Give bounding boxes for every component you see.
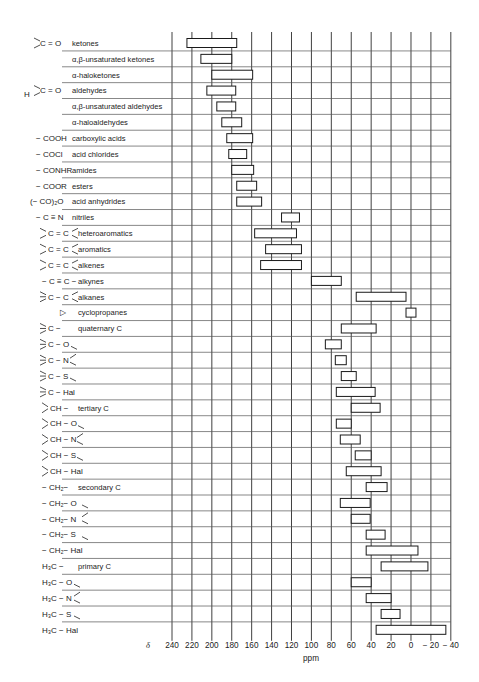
range-bar [207, 86, 236, 95]
compound-class-label: secondary C [78, 483, 121, 492]
bond-stroke [40, 362, 46, 365]
range-bar [237, 181, 257, 190]
range-bar [340, 498, 370, 507]
bond-stroke [42, 472, 48, 476]
range-bar [366, 594, 391, 603]
functional-group-label: C − N [48, 356, 69, 365]
range-bar [212, 70, 253, 79]
bond-stroke [42, 456, 48, 460]
bond-stroke [40, 371, 46, 374]
range-bar [311, 276, 341, 285]
compound-class-label: acid chlorides [72, 150, 119, 159]
functional-group-label: H₃C − Hal [42, 626, 78, 635]
bond-stroke [40, 387, 46, 390]
compound-class-label: alkenes [78, 261, 104, 270]
x-tick-label: 160 [245, 641, 259, 650]
functional-group-label: − C ≡ C − [42, 277, 77, 286]
bond-stroke [70, 362, 76, 365]
compound-class-label: heteroaromatics [78, 229, 133, 238]
range-bar [187, 39, 237, 48]
functional-group-label: CH − O [50, 419, 77, 428]
functional-group-label: H₃C − [42, 562, 64, 571]
compound-class-label: α,β-unsaturated ketones [72, 55, 154, 64]
range-bar [232, 165, 254, 174]
range-bar [335, 356, 346, 365]
compound-class-label: primary C [78, 562, 111, 571]
functional-group-label: H₃C − O [42, 578, 72, 587]
x-axis-tick-labels: 240220200180160140120100806040200− 20− 4… [165, 641, 459, 650]
x-tick-label: 240 [165, 641, 179, 650]
functional-group-label: C = C [48, 245, 69, 254]
functional-group-label: C = O [40, 86, 61, 95]
x-tick-label: 0 [409, 641, 414, 650]
bond-stroke [77, 434, 83, 438]
bond-stroke [40, 251, 46, 254]
range-bar [217, 102, 236, 111]
bond-stroke [40, 292, 46, 295]
compound-class-label: α-haloketones [72, 71, 120, 80]
bond-stroke [82, 537, 88, 540]
bond-stroke [70, 378, 76, 381]
functional-group-label: C = O [40, 39, 61, 48]
range-bar [255, 229, 297, 238]
range-bar [229, 150, 247, 159]
bond-stroke [42, 419, 48, 423]
range-bar [366, 546, 418, 555]
compound-class-label: aldehydes [72, 86, 107, 95]
functional-group-label: − COOH [36, 134, 67, 143]
bond-stroke [40, 330, 46, 333]
bond-stroke [82, 513, 88, 517]
functional-group-label: H₃C − N [42, 594, 72, 603]
bond-stroke [42, 435, 48, 439]
compound-class-label: α-haloaldehydes [72, 118, 128, 127]
bond-stroke [40, 339, 46, 342]
bond-stroke [40, 228, 46, 231]
x-tick-label: 100 [305, 641, 319, 650]
compound-class-label: esters [72, 182, 93, 191]
functional-group-label: − COCl [36, 150, 63, 159]
range-bar [237, 197, 262, 206]
bond-stroke [78, 426, 84, 429]
range-bar [381, 562, 428, 571]
bond-stroke [40, 299, 46, 302]
bond-stroke [74, 616, 80, 619]
bond-stroke [40, 346, 46, 349]
functional-group-label: CH − S [50, 451, 76, 460]
x-tick-label: 80 [327, 641, 337, 650]
functional-group-label: C = C [48, 229, 69, 238]
range-bar [351, 514, 370, 523]
functional-group-label: H₃C − S [42, 610, 71, 619]
range-bar [336, 387, 375, 396]
bond-stroke [71, 346, 77, 349]
hydrogen-label: H [24, 90, 30, 99]
x-tick-label: 40 [367, 641, 377, 650]
compound-class-label: alkynes [78, 277, 104, 286]
bond-stroke [77, 457, 83, 460]
range-bar [325, 340, 341, 349]
bond-stroke [42, 403, 48, 407]
functional-group-label: − CH₂− N [42, 515, 76, 524]
functional-group-label: CH − [50, 404, 69, 413]
bond-stroke [82, 521, 88, 524]
x-axis-title: ppm [303, 654, 319, 663]
range-bar [351, 403, 380, 412]
functional-group-label: − CONHR [36, 166, 72, 175]
functional-group-label: C − Hal [48, 388, 75, 397]
range-bar [261, 261, 302, 270]
bond-stroke [74, 600, 80, 603]
functional-group-label: − CH₂− O [42, 499, 77, 508]
bond-stroke [82, 505, 88, 508]
compound-class-label: quaternary C [78, 324, 122, 333]
range-bar [376, 625, 446, 634]
x-tick-label: − 40 [443, 641, 460, 650]
bond-stroke [42, 450, 48, 454]
functional-group-label: C − S [48, 372, 68, 381]
functional-group-label: ▷ [60, 308, 67, 317]
bond-stroke [77, 442, 83, 445]
bond-stroke [40, 394, 46, 397]
bond-stroke [40, 235, 46, 238]
bond-stroke [40, 355, 46, 358]
bond-stroke [42, 409, 48, 413]
range-bar [227, 134, 253, 143]
x-tick-label: 220 [185, 641, 199, 650]
